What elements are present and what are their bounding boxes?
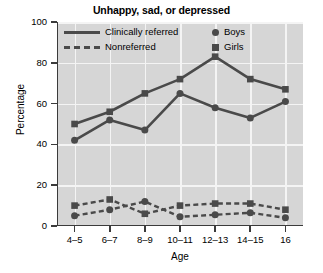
legend-label-nonreferred: Nonreferred (105, 41, 156, 52)
x-axis-tick (214, 226, 216, 232)
dashed-line-swatch-icon (64, 46, 100, 49)
y-axis-tick (51, 144, 57, 146)
x-axis-tick (285, 226, 287, 232)
chart-figure: Unhappy, sad, or depressed 020406080100 … (0, 0, 323, 273)
x-axis-tick (179, 226, 181, 232)
y-axis-tick (51, 103, 57, 105)
chart-title: Unhappy, sad, or depressed (0, 4, 323, 16)
y-axis-tick (51, 225, 57, 227)
chart-legend: Clinically referred Nonreferred Boys Gir… (64, 26, 279, 56)
circle-marker-icon (212, 29, 219, 36)
solid-line-swatch-icon (64, 31, 100, 34)
legend-label-boys: Boys (224, 26, 245, 37)
x-axis-tick (144, 226, 146, 232)
y-axis-tick (51, 62, 57, 64)
y-axis-tick-label: 100 (0, 16, 47, 27)
y-axis-tick (51, 184, 57, 186)
x-axis-tick (249, 226, 251, 232)
y-axis-tick-label: 20 (0, 179, 47, 190)
y-axis-title: Percentage (15, 55, 26, 165)
x-axis-title: Age (57, 251, 303, 262)
x-axis-tick (109, 226, 111, 232)
square-marker-icon (212, 44, 219, 51)
legend-label-clinically-referred: Clinically referred (105, 26, 178, 37)
y-axis-tick (51, 21, 57, 23)
legend-label-girls: Girls (224, 41, 244, 52)
x-axis-tick-label: 16 (262, 234, 308, 245)
vertical-gridline (285, 22, 287, 226)
x-axis-tick (74, 226, 76, 232)
y-axis-tick-label: 0 (0, 220, 47, 231)
